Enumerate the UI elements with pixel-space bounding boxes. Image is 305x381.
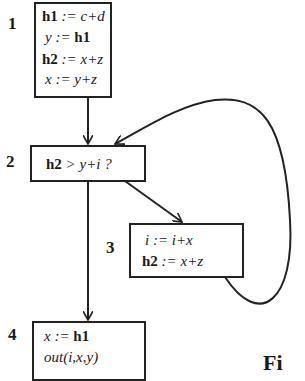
node-1-line-3: h2 := x+z: [42, 50, 103, 68]
node-4-line-2: out(i,x,y): [44, 348, 98, 366]
node-1-label: 1: [8, 14, 17, 34]
node-2-line-1: h2 > y+i ?: [46, 155, 112, 173]
node-1-line-2: y := h1: [45, 28, 90, 46]
node-1-line-4: x := y+z: [45, 70, 97, 88]
node-4-box: x := h1 out(i,x,y): [32, 321, 146, 381]
figure-caption: Fi: [263, 350, 283, 376]
node-4-label: 4: [8, 325, 17, 345]
node-2-box: h2 > y+i ?: [30, 145, 146, 182]
node-3-line-1: i := i+x: [145, 231, 193, 249]
node-2-label: 2: [6, 152, 15, 172]
node-1-box: h1 := c+d y := h1 h2 := x+z x := y+z: [34, 2, 112, 98]
edge-2-3: [125, 181, 182, 222]
node-3-label: 3: [106, 238, 115, 258]
node-1-line-1: h1 := c+d: [42, 7, 105, 25]
node-3-line-2: h2 := x+z: [142, 252, 203, 270]
node-4-line-1: x := h1: [44, 327, 89, 345]
node-3-box: i := i+x h2 := x+z: [129, 223, 244, 278]
